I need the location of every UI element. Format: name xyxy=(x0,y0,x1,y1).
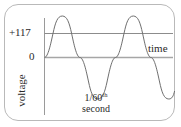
ac-voltage-waveform-figure: +117 0 time voltage 1/60th second xyxy=(0,0,181,127)
period-unit: second xyxy=(82,103,110,114)
period-ordinal: th xyxy=(102,91,107,98)
peak-voltage-label: +117 xyxy=(9,27,31,38)
zero-voltage-label: 0 xyxy=(29,51,35,62)
time-axis-label: time xyxy=(148,43,168,54)
voltage-axis-label: voltage xyxy=(16,65,27,117)
period-annotation: 1/60th second xyxy=(67,92,125,114)
period-numerator: 1/60 xyxy=(85,92,103,103)
